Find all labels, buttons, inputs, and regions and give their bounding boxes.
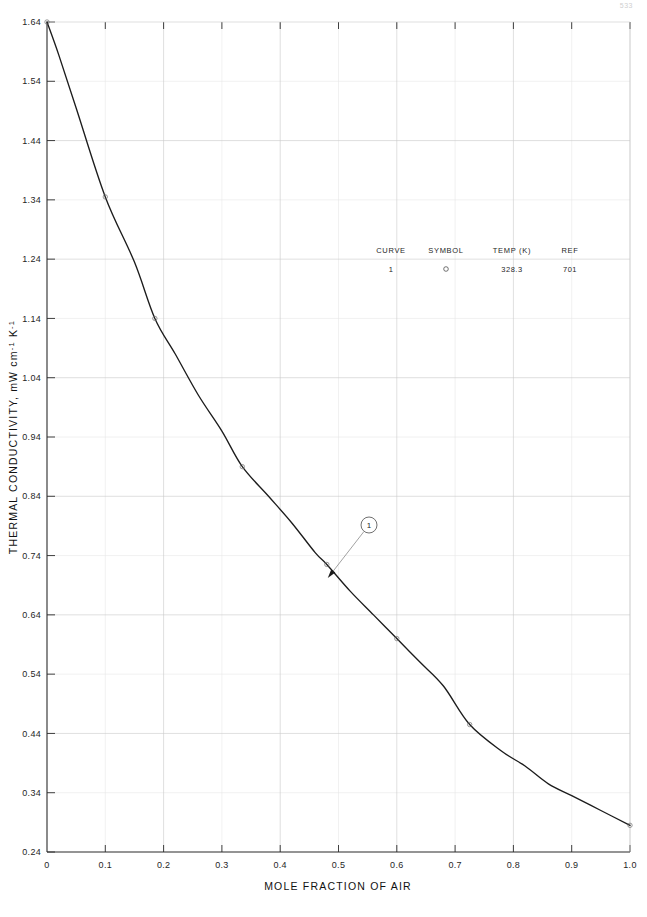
legend-header-curve: CURVE: [376, 246, 406, 255]
y-tick-label: 0.84: [22, 491, 41, 501]
x-tick-labels: 00.10.20.30.40.50.60.70.80.91.0: [44, 860, 636, 870]
y-tick-label: 0.24: [22, 847, 41, 857]
y-tick-label: 0.74: [22, 551, 41, 561]
x-tick-label: 1.0: [623, 860, 636, 870]
callout-leader-line: [332, 532, 364, 573]
legend-header-symbol: SYMBOL: [428, 246, 463, 255]
y-tick-label: 0.54: [22, 669, 41, 679]
y-axis-title: THERMAL CONDUCTIVITY, mW cm-1 K-1: [7, 320, 19, 554]
y-tick-label: 0.94: [22, 432, 41, 442]
y-axis-title-exp1: -1: [7, 341, 16, 350]
legend-cell-ref: 701: [563, 265, 577, 274]
y-tick-label: 1.04: [22, 373, 41, 383]
x-tick-label: 0.3: [215, 860, 228, 870]
y-tick-label: 1.64: [22, 17, 41, 27]
legend-cell-curve: 1: [389, 265, 394, 274]
x-axis-title: MOLE FRACTION OF AIR: [264, 880, 412, 892]
x-tick-label: 0: [44, 860, 49, 870]
y-tick-label: 1.14: [22, 314, 41, 324]
legend-header-temp: TEMP (K): [493, 246, 531, 255]
x-tick-label: 0.9: [565, 860, 578, 870]
x-tick-label: 0.4: [273, 860, 286, 870]
y-tick-label: 1.24: [22, 254, 41, 264]
legend: CURVE SYMBOL TEMP (K) REF 1 328.3 701: [376, 246, 578, 274]
y-tick-label: 1.54: [22, 76, 41, 86]
legend-circle-icon: [444, 267, 449, 272]
y-axis-title-exp2: -1: [7, 320, 16, 329]
y-tick-labels: 0.240.340.440.540.640.740.840.941.041.14…: [22, 17, 41, 857]
x-tick-label: 0.7: [448, 860, 461, 870]
y-axis-title-main: THERMAL CONDUCTIVITY, mW cm: [7, 350, 19, 554]
y-tick-label: 0.34: [22, 788, 41, 798]
chart-canvas: 0.240.340.440.540.640.740.840.941.041.14…: [0, 0, 647, 917]
faint-gridlines: [47, 22, 630, 852]
thermal-conductivity-chart: 533 0.240.340.440.540.640.740.840.941.04…: [0, 0, 647, 917]
y-tick-label: 1.44: [22, 136, 41, 146]
y-tick-label: 0.64: [22, 610, 41, 620]
y-tick-label: 1.34: [22, 195, 41, 205]
y-axis-title-mid: K: [7, 329, 19, 341]
x-tick-label: 0.5: [332, 860, 345, 870]
y-tick-label: 0.44: [22, 729, 41, 739]
page-number: 533: [620, 2, 633, 9]
x-tick-label: 0.2: [157, 860, 170, 870]
legend-cell-temp: 328.3: [501, 265, 522, 274]
x-tick-label: 0.1: [99, 860, 112, 870]
x-tick-label: 0.6: [390, 860, 403, 870]
x-tick-label: 0.8: [507, 860, 520, 870]
callout-label: 1: [367, 521, 372, 530]
legend-header-ref: REF: [561, 246, 578, 255]
curve-callout-1: 1: [328, 517, 377, 578]
